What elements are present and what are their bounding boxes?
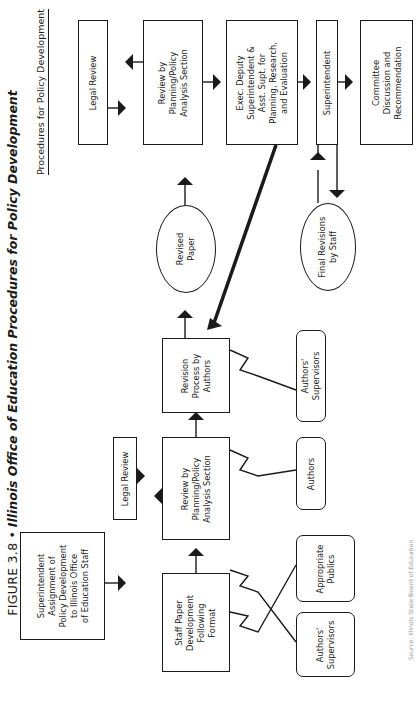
exec-deputy-box: Exec. Deputy Superintendent & Asst. Supt… (226, 20, 298, 145)
legal-review-label-1: Legal Review (120, 439, 131, 519)
final-revisions-ellipse: Final Revisions by Staff (300, 203, 356, 291)
staff-paper-label: Staff Paper Development Following Format (174, 578, 218, 668)
legal-review-label-2: Legal Review (88, 28, 99, 138)
revised-paper-ellipse: Revised Paper (156, 205, 216, 293)
legal-review-box-2: Legal Review (78, 20, 108, 145)
superintendent-label: Superintendent (322, 25, 333, 140)
revision-process-label: Revision Process by Authors (180, 338, 213, 413)
committee-box: Committee Discussion and Recommendation (360, 20, 413, 145)
review-planning-label-1: Review by Planning/Policy Analysis Secti… (180, 439, 213, 539)
revised-paper-label: Revised Paper (175, 214, 197, 284)
authors-supervisors-label-1: Authors' Supervisors (300, 334, 322, 419)
appropriate-publics-label: Appropriate Publics (315, 536, 337, 601)
superintendent-assignment-label: Superintendent Assignment of Policy Deve… (35, 536, 90, 636)
authors-label: Authors (306, 439, 317, 509)
source-note: Source: Illinois State Board of Educatio… (407, 540, 414, 660)
final-revisions-label: Final Revisions by Staff (317, 207, 339, 287)
revision-process-box: Revision Process by Authors (162, 338, 230, 413)
authors-box: Authors (296, 437, 326, 510)
review-planning-box-2: Review by Planning/Policy Analysis Secti… (143, 20, 203, 145)
authors-supervisors-box-2: Authors' Supervisors (296, 612, 355, 677)
authors-supervisors-label-2: Authors' Supervisors (315, 612, 337, 677)
superintendent-box: Superintendent (316, 20, 338, 145)
review-planning-box-1: Review by Planning/Policy Analysis Secti… (162, 437, 230, 540)
legal-review-box-1: Legal Review (113, 437, 137, 520)
appropriate-publics-box: Appropriate Publics (296, 535, 355, 602)
exec-deputy-label: Exec. Deputy Superintendent & Asst. Supt… (235, 23, 290, 143)
committee-label: Committee Discussion and Recommendation (370, 25, 403, 140)
review-planning-label-2: Review by Planning/Policy Analysis Secti… (157, 25, 190, 140)
authors-supervisors-box-1: Authors' Supervisors (296, 330, 326, 422)
superintendent-assignment-box: Superintendent Assignment of Policy Deve… (20, 532, 105, 640)
staff-paper-box: Staff Paper Development Following Format (162, 573, 230, 672)
